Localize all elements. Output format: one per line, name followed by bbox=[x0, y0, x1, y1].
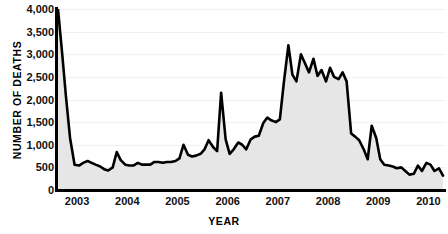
y-tick-label: 1,500 bbox=[14, 117, 54, 128]
y-axis-tick-labels: 05001,0001,5002,0002,5003,0003,5004,000 bbox=[14, 0, 54, 195]
plot-area bbox=[57, 9, 446, 190]
y-tick-label: 3,000 bbox=[14, 49, 54, 60]
x-tick-label: 2003 bbox=[65, 195, 89, 207]
x-tick-label: 2007 bbox=[266, 195, 290, 207]
x-axis-title: YEAR bbox=[0, 215, 448, 227]
chart-container: NUMBER OF DEATHS 05001,0001,5002,0002,50… bbox=[0, 0, 448, 234]
y-tick-label: 4,000 bbox=[14, 4, 54, 15]
x-tick-label: 2010 bbox=[416, 195, 440, 207]
y-tick-label: 500 bbox=[14, 162, 54, 173]
x-tick-label: 2009 bbox=[366, 195, 390, 207]
y-axis-line bbox=[55, 7, 58, 192]
x-tick-label: 2004 bbox=[115, 195, 139, 207]
y-tick-label: 0 bbox=[14, 185, 54, 196]
x-tick-label: 2006 bbox=[215, 195, 239, 207]
y-tick-label: 2,000 bbox=[14, 94, 54, 105]
y-tick-label: 3,500 bbox=[14, 26, 54, 37]
x-axis-line bbox=[55, 189, 446, 192]
x-tick-label: 2005 bbox=[165, 195, 189, 207]
y-tick-label: 2,500 bbox=[14, 71, 54, 82]
y-tick-label: 1,000 bbox=[14, 139, 54, 150]
x-tick-label: 2008 bbox=[316, 195, 340, 207]
series-area-fill bbox=[58, 9, 443, 190]
x-axis-tick-labels: 20032004200520062007200820092010 bbox=[57, 195, 446, 213]
series-line-chart bbox=[57, 9, 446, 190]
